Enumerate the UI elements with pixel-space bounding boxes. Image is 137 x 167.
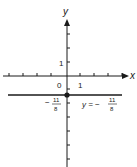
- equation-label: y = − 11 8: [81, 97, 117, 112]
- equation-prefix: y = −: [81, 100, 100, 109]
- y-unit-label: 1: [59, 59, 64, 68]
- y-axis-arrow-icon: [64, 19, 70, 26]
- y-intercept-dot: [64, 92, 69, 97]
- intercept-numerator: 11: [53, 97, 60, 103]
- origin-label: 0: [57, 81, 62, 90]
- intercept-sign: −: [45, 98, 50, 107]
- x-axis: [3, 73, 124, 76]
- x-axis-label: x: [129, 70, 136, 81]
- intercept-label: − 11 8: [45, 97, 61, 112]
- y-axis-label: y: [62, 6, 69, 17]
- equation-denominator: 8: [110, 106, 114, 112]
- intercept-denominator: 8: [54, 106, 58, 112]
- graph: y x 1 0 1 − 11 8 y = − 11 8: [0, 0, 137, 167]
- x-unit-label: 1: [78, 81, 83, 90]
- x-axis-arrow-icon: [122, 73, 129, 79]
- equation-numerator: 11: [109, 97, 116, 103]
